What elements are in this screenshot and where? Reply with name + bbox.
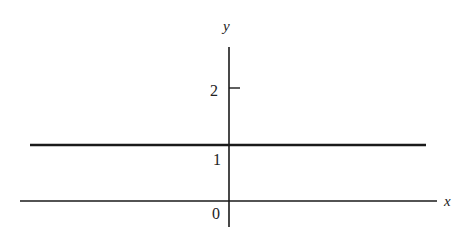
x-axis-label: x: [443, 193, 451, 209]
tick-label-2: 2: [210, 82, 218, 99]
tick-label-0: 0: [212, 205, 220, 222]
graph: y x 2 1 0: [0, 0, 465, 239]
y-axis-label: y: [221, 18, 230, 34]
tick-label-1: 1: [213, 151, 221, 168]
